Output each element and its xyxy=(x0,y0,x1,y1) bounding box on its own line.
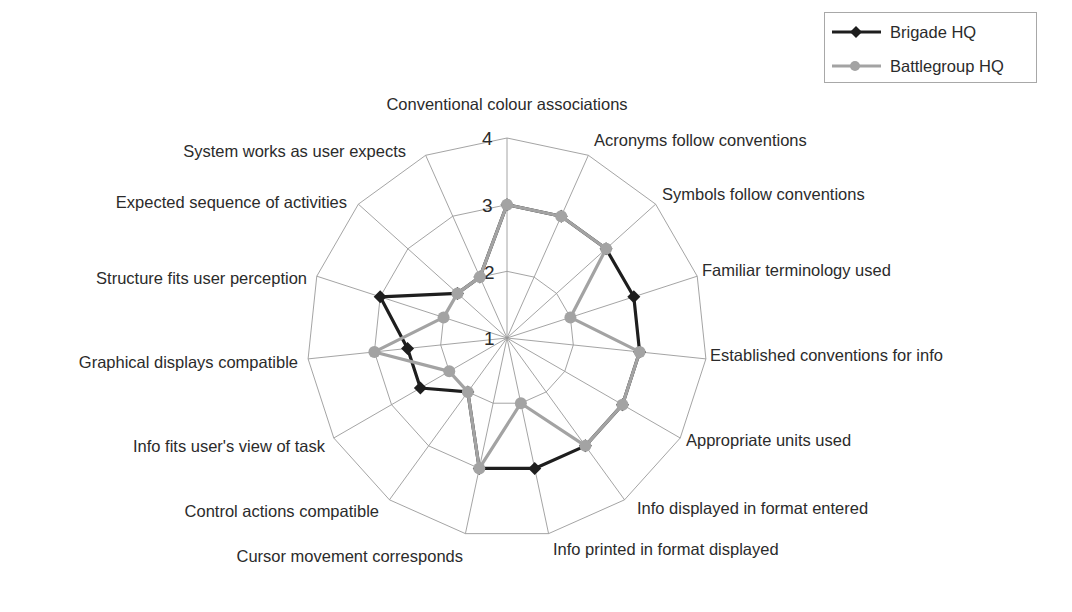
circle-marker-icon xyxy=(438,311,450,323)
circle-marker-icon xyxy=(443,365,455,377)
legend-label-brigade-hq: Brigade HQ xyxy=(890,23,976,41)
circle-marker-icon xyxy=(462,386,474,398)
axis-spoke xyxy=(507,338,680,438)
circle-marker-icon xyxy=(600,243,612,255)
tick-label-3: 3 xyxy=(482,195,493,216)
axis-label-system-works: System works as user expects xyxy=(183,142,406,160)
radar-chart: 1 2 3 4 Conventional colour associations… xyxy=(0,0,1072,612)
diamond-marker-icon xyxy=(528,462,541,475)
axis-label-symbols: Symbols follow conventions xyxy=(662,185,865,203)
circle-marker-icon xyxy=(473,462,485,474)
circle-marker-icon xyxy=(850,61,860,71)
circle-marker-icon xyxy=(555,210,567,222)
circle-marker-icon xyxy=(501,199,513,211)
axis-label-control-actions: Control actions compatible xyxy=(185,502,379,520)
axis-label-established-conventions: Established conventions for info xyxy=(710,346,943,364)
axis-spoke xyxy=(507,276,697,338)
axis-spoke xyxy=(426,155,507,338)
axis-label-info-printed: Info printed in format displayed xyxy=(553,540,779,558)
diamond-marker-icon xyxy=(374,290,387,303)
circle-marker-icon xyxy=(451,287,463,299)
tick-label-4: 4 xyxy=(482,128,493,149)
axis-label-cursor-movement: Cursor movement corresponds xyxy=(236,547,463,565)
legend-label-battlegroup-hq: Battlegroup HQ xyxy=(890,57,1004,75)
axis-label-graphical-displays: Graphical displays compatible xyxy=(79,353,298,371)
axis-spoke xyxy=(507,338,706,359)
circle-marker-icon xyxy=(616,399,628,411)
axis-spoke xyxy=(507,204,656,338)
diamond-marker-icon xyxy=(627,290,640,303)
axis-label-conventional-colour: Conventional colour associations xyxy=(386,95,627,113)
axis-label-acronyms: Acronyms follow conventions xyxy=(594,131,807,149)
axis-spoke xyxy=(317,276,507,338)
tick-label-1: 1 xyxy=(484,328,495,349)
axis-label-familiar-terminology: Familiar terminology used xyxy=(702,261,891,279)
circle-marker-icon xyxy=(579,440,591,452)
axis-label-appropriate-units: Appropriate units used xyxy=(686,431,851,449)
axis-spoke xyxy=(507,155,588,338)
legend: Brigade HQ Battlegroup HQ xyxy=(825,13,1037,83)
circle-marker-icon xyxy=(368,346,380,358)
axis-label-structure-fits: Structure fits user perception xyxy=(96,269,307,287)
circle-marker-icon xyxy=(564,311,576,323)
axis-label-expected-sequence: Expected sequence of activities xyxy=(116,193,347,211)
circle-marker-icon xyxy=(515,397,527,409)
axis-label-info-displayed: Info displayed in format entered xyxy=(637,499,868,517)
axis-label-info-fits-view: Info fits user's view of task xyxy=(133,437,326,455)
circle-marker-icon xyxy=(634,346,646,358)
circle-marker-icon xyxy=(474,271,486,283)
diamond-marker-icon xyxy=(414,382,427,395)
diamond-marker-icon xyxy=(401,342,414,355)
